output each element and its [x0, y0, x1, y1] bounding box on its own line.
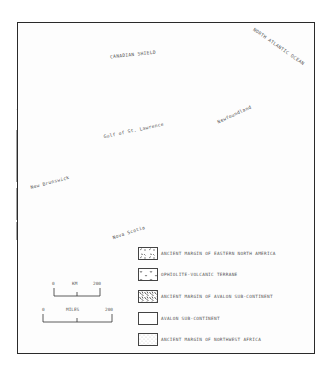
pattern-dense-dashes-icon	[138, 290, 158, 303]
pattern-dots-icon	[138, 333, 158, 346]
pattern-v-marks-icon	[138, 268, 158, 281]
legend-label: ANCIENT MARGIN OF AVALON SUB-CONTINENT	[161, 294, 273, 299]
legend-label: ANCIENT MARGIN OF NORTHWEST AFRICA	[161, 337, 261, 342]
scale-miles-unit: MILES	[66, 307, 79, 312]
legend-item-northwest-africa: ANCIENT MARGIN OF NORTHWEST AFRICA	[138, 332, 261, 346]
legend-label: OPHIOLITE-VOLCANIC TERRANE	[161, 272, 238, 277]
legend-label: AVALON SUB-CONTINENT	[161, 316, 220, 321]
scale-miles-end: 200	[105, 307, 113, 312]
legend-item-avalon-margin: ANCIENT MARGIN OF AVALON SUB-CONTINENT	[138, 289, 273, 303]
scale-km-start: 0	[52, 281, 55, 286]
legend-label: ANCIENT MARGIN OF EASTERN NORTH AMERICA	[161, 251, 276, 256]
scale-km-unit: KM	[72, 281, 77, 286]
legend-item-ophiolite: OPHIOLITE-VOLCANIC TERRANE	[138, 267, 238, 281]
scale-miles-start: 0	[42, 307, 45, 312]
legend-item-avalon: AVALON SUB-CONTINENT	[138, 311, 220, 325]
map-frame	[17, 22, 315, 354]
scale-km-end: 200	[93, 281, 101, 286]
pattern-dashes-icon	[138, 247, 158, 260]
pattern-blank-icon	[138, 312, 158, 325]
legend-item-eastern-north-america: ANCIENT MARGIN OF EASTERN NORTH AMERICA	[138, 246, 276, 260]
